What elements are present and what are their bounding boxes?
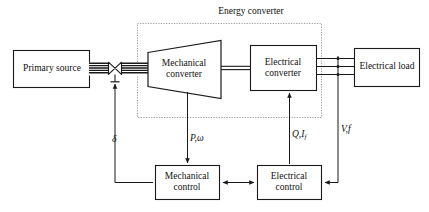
three-phase-tap [337, 56, 340, 77]
three-phase-lines [317, 59, 355, 75]
mechanical-control-label-line2: control [174, 182, 201, 192]
signal-label-q-if: Q,If [292, 129, 332, 141]
mechanical-control-label: Mechanicalcontrol [156, 171, 218, 193]
signal-label-p-omega: P,ω [190, 133, 226, 144]
energy-converter-diagram: Energy converter Primary source Mechanic… [0, 0, 429, 212]
electrical-converter-label: Electricalconverter [251, 57, 315, 79]
mechanical-converter-label: Mechanicalconverter [152, 58, 216, 80]
electrical-converter-label-line2: converter [265, 68, 301, 78]
energy-converter-label: Energy converter [186, 6, 316, 17]
signal-label-v-f: V,f [341, 124, 375, 135]
signal-label-q-if-subscript: f [304, 133, 306, 141]
electrical-converter-label-line1: Electrical [265, 57, 301, 67]
mechanical-converter-label-line2: converter [166, 69, 202, 79]
primary-source-label: Primary source [13, 63, 91, 74]
mechanical-converter-label-line1: Mechanical [162, 58, 206, 68]
throttle-valve-icon [108, 62, 122, 82]
electrical-control-label: Electricalcontrol [258, 171, 320, 193]
signal-label-q-if-base: Q,I [292, 129, 304, 139]
coupling-shaft [221, 66, 250, 69]
signal-label-delta: δ [112, 134, 134, 145]
electrical-load-label: Electrical load [355, 61, 419, 72]
electrical-control-label-line1: Electrical [271, 171, 307, 181]
mechanical-control-label-line1: Mechanical [165, 171, 209, 181]
electrical-control-label-line2: control [276, 182, 303, 192]
